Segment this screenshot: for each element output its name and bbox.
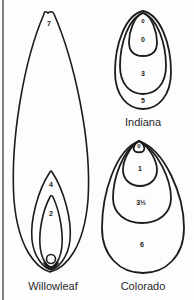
indiana-size-label: 0: [141, 36, 145, 43]
willowleaf-size-7-outline: [13, 12, 88, 272]
willowleaf-size-label: 7: [47, 20, 51, 27]
indiana-size-label: 5: [141, 97, 145, 104]
indiana-blades: [115, 11, 171, 109]
colorado-size-label: 3½: [136, 199, 146, 206]
colorado-size-label: 1: [138, 165, 142, 172]
indiana-size-label: 3: [141, 70, 145, 77]
indiana-size-label: 0: [141, 18, 144, 24]
willowleaf-size-label: 2: [49, 210, 53, 217]
willowleaf-size-label: 4: [49, 181, 53, 188]
blade-outlines: [0, 0, 194, 300]
colorado-size-label: 6: [140, 241, 144, 248]
blade-diagram: 7 4 2 0 0 3 5 0 1 3½ 6 Willowleaf Indian…: [0, 0, 194, 300]
colorado-size-label: 0: [137, 143, 140, 149]
willowleaf-label: Willowleaf: [13, 280, 93, 292]
colorado-size-3half-outline: [113, 141, 171, 223]
colorado-label: Colorado: [106, 280, 180, 292]
indiana-label: Indiana: [110, 116, 176, 128]
willowleaf-size-2-outline: [40, 196, 62, 268]
willowleaf-blades: [13, 12, 88, 272]
willowleaf-size-0-outline: [47, 255, 56, 264]
colorado-blades: [102, 141, 184, 273]
